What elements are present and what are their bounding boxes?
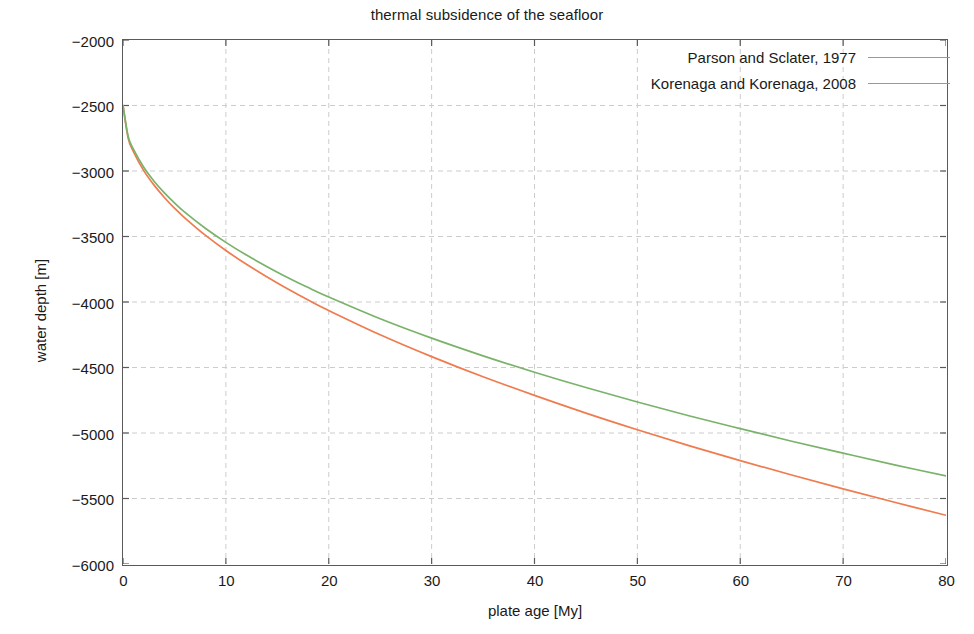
chart-title: thermal subsidence of the seafloor bbox=[0, 6, 974, 23]
y-tick-label: −4500 bbox=[44, 360, 114, 377]
x-tick-label: 10 bbox=[191, 572, 261, 589]
x-tick-label: 50 bbox=[603, 572, 673, 589]
plot-area bbox=[122, 39, 948, 566]
y-tick-label: −3500 bbox=[44, 229, 114, 246]
x-tick-label: 40 bbox=[500, 572, 570, 589]
y-tick-label: −5000 bbox=[44, 425, 114, 442]
legend-swatch-line bbox=[868, 83, 950, 84]
x-tick-label: 30 bbox=[397, 572, 467, 589]
y-tick-label: −2500 bbox=[44, 98, 114, 115]
x-tick-label: 80 bbox=[912, 572, 974, 589]
x-tick-label: 0 bbox=[89, 572, 159, 589]
plot-canvas bbox=[123, 40, 947, 565]
y-tick-label: −6000 bbox=[44, 556, 114, 573]
legend-item[interactable]: Parson and Sclater, 1977 bbox=[560, 44, 950, 70]
y-tick-label: −5500 bbox=[44, 491, 114, 508]
figure-container: thermal subsidence of the seafloor −6000… bbox=[0, 0, 974, 634]
y-tick-label: −3000 bbox=[44, 163, 114, 180]
y-tick-label: −2000 bbox=[44, 32, 114, 49]
series-svg bbox=[123, 40, 946, 564]
chart-legend: Parson and Sclater, 1977Korenaga and Kor… bbox=[560, 44, 950, 96]
x-tick-label: 70 bbox=[809, 572, 879, 589]
grid-lines bbox=[123, 40, 946, 564]
x-axis-label: plate age [My] bbox=[122, 602, 948, 619]
y-tick-label: −4000 bbox=[44, 294, 114, 311]
legend-label: Parson and Sclater, 1977 bbox=[688, 49, 856, 66]
y-axis-label: water depth [m] bbox=[32, 211, 49, 411]
x-tick-label: 20 bbox=[294, 572, 364, 589]
x-tick-label: 60 bbox=[706, 572, 776, 589]
legend-label: Korenaga and Korenaga, 2008 bbox=[651, 75, 856, 92]
legend-swatch-line bbox=[868, 57, 950, 58]
legend-item[interactable]: Korenaga and Korenaga, 2008 bbox=[560, 70, 950, 96]
y-axis-tick-labels: −6000−5500−5000−4500−4000−3500−3000−2500… bbox=[42, 0, 114, 634]
